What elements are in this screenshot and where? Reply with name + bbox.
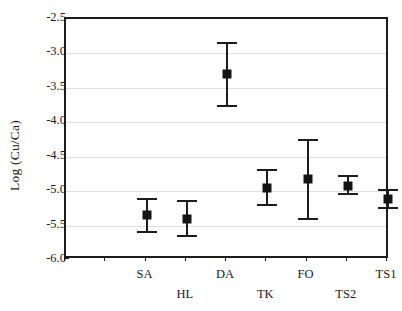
plot-area: [64, 17, 388, 258]
gridline: [66, 88, 386, 89]
x-axis-tick-label: SA: [137, 268, 153, 281]
gridline: [66, 191, 386, 192]
x-axis-tick-label: TS2: [335, 288, 356, 301]
y-axis-tick-label: -3.0: [24, 45, 66, 58]
y-axis-tick-label: -3.5: [24, 80, 66, 93]
y-axis-tick-label: -2.5: [24, 11, 66, 24]
y-axis-tick-label: -5.0: [24, 183, 66, 196]
gridline: [66, 157, 386, 158]
x-axis-tick-label: DA: [216, 268, 234, 281]
x-axis-tick-label: TK: [257, 288, 274, 301]
x-axis-tick-label: TS1: [376, 268, 397, 281]
y-axis-tick-label: -5.5: [24, 218, 66, 231]
gridline: [66, 226, 386, 227]
y-axis-tick-label: -4.5: [24, 149, 66, 162]
x-axis-tick-label: HL: [176, 288, 193, 301]
x-axis-tick-label: FO: [298, 268, 314, 281]
y-axis-tick-label: -6.0: [24, 252, 66, 265]
y-axis-tick-label: -4.0: [24, 114, 66, 127]
gridlines: [66, 19, 386, 256]
gridline: [66, 122, 386, 123]
gridline: [66, 53, 386, 54]
chart-figure: Log (Cu/Ca) -2.5-3.0-3.5-4.0-4.5-5.0-5.5…: [0, 0, 402, 311]
errorbar-line: [387, 189, 389, 209]
